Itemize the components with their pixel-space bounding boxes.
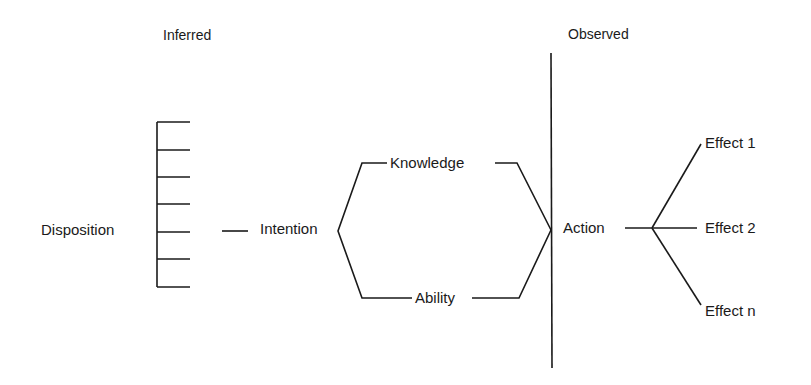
inferred-header: Inferred [163, 27, 211, 44]
inferred-observed-divider [551, 53, 552, 368]
effect-2-label: Effect 2 [705, 219, 756, 236]
effect-1-label: Effect 1 [705, 134, 756, 151]
knowledge-ability-branch [338, 163, 551, 298]
ability-label: Ability [415, 289, 455, 306]
disposition-bracket [157, 122, 190, 287]
action-label: Action [563, 219, 605, 236]
observed-header: Observed [568, 26, 629, 43]
disposition-label: Disposition [41, 221, 114, 238]
knowledge-label: Knowledge [390, 154, 464, 171]
effect-n-label: Effect n [705, 302, 756, 319]
intention-label: Intention [260, 220, 318, 237]
diagram-canvas [0, 0, 811, 385]
effects-branch [625, 144, 701, 305]
